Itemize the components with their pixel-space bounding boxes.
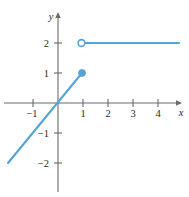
y-tick-label--1: −1 (38, 128, 49, 139)
y-axis-arrow-icon (55, 12, 61, 18)
y-tick-label--2: −2 (38, 158, 49, 169)
y-tick-label-1: 1 (44, 68, 49, 79)
x-tick-label--1: −1 (26, 108, 37, 119)
x-axis-arrow-icon (176, 100, 182, 106)
piecewise-function-graph: −1 1 2 3 4 2 1 −1 −2 y x (0, 0, 189, 197)
y-axis-label: y (48, 11, 54, 22)
closed-endpoint-marker (79, 70, 86, 77)
graph-canvas: −1 1 2 3 4 2 1 −1 −2 y x (0, 0, 189, 197)
x-tick-label-1: 1 (80, 108, 85, 119)
ramp-segment (8, 73, 82, 163)
axes-group (4, 12, 182, 192)
y-tick-label-2: 2 (44, 38, 49, 49)
open-endpoint-marker (78, 40, 85, 47)
x-tick-label-3: 3 (130, 108, 135, 119)
x-axis-label: x (178, 107, 184, 118)
x-tick-label-4: 4 (155, 108, 161, 119)
x-tick-label-2: 2 (105, 108, 110, 119)
